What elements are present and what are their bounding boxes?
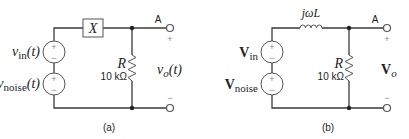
source-a-noise-minus: − xyxy=(51,85,56,95)
source-a-in-plus: + xyxy=(51,42,56,52)
circuit-diagrams: X + − + − vin(t) vnoise(t) A + − R 10 kΩ… xyxy=(0,0,409,139)
source-b-in-label: Vin xyxy=(239,45,258,62)
circuit-a: X + − + − vin(t) vnoise(t) A + − R 10 kΩ… xyxy=(0,14,182,133)
junction-b-top xyxy=(347,26,351,30)
resistor-b-value: 10 kΩ xyxy=(318,71,345,82)
element-x-label: X xyxy=(88,21,98,36)
wire-b-bottom xyxy=(272,95,385,108)
junction-a-top xyxy=(130,26,134,30)
caption-a: (a) xyxy=(103,122,115,133)
wire-a-top-left xyxy=(54,28,83,41)
source-b-in-minus: − xyxy=(269,53,274,63)
terminal-b-top xyxy=(384,25,391,32)
junction-a-bottom xyxy=(130,106,134,110)
source-b-noise-label: Vnoise xyxy=(225,77,258,94)
wire-a-bottom xyxy=(54,95,166,108)
source-b-noise-plus: + xyxy=(269,74,274,84)
output-b-plus: + xyxy=(384,34,389,44)
inductor-label: jωL xyxy=(300,6,321,20)
resistor-b-name: R xyxy=(333,56,343,71)
node-a-label: A xyxy=(155,14,162,25)
inductor-icon xyxy=(300,25,322,28)
source-b-noise-minus: − xyxy=(269,85,274,95)
caption-b: (b) xyxy=(322,122,334,133)
circuit-b: jωL + − + − Vin Vnoise A + − R 10 kΩ Vo … xyxy=(225,6,397,133)
output-a-plus: + xyxy=(167,34,172,44)
junction-b-bottom xyxy=(347,106,351,110)
output-b-minus: − xyxy=(384,93,389,103)
source-a-noise-label: vnoise(t) xyxy=(0,76,40,93)
resistor-b-icon xyxy=(345,55,353,81)
source-b-in-plus: + xyxy=(269,42,274,52)
terminal-a-top xyxy=(167,25,174,32)
resistor-a-name: R xyxy=(116,56,126,71)
source-a-in-minus: − xyxy=(51,53,56,63)
terminal-b-bottom xyxy=(384,105,391,112)
output-b-label: Vo xyxy=(381,62,397,79)
resistor-a-icon xyxy=(128,55,136,81)
node-b-label: A xyxy=(372,14,379,25)
source-a-noise-plus: + xyxy=(51,74,56,84)
output-a-label: vo(t) xyxy=(157,62,182,79)
source-a-in-label: vin(t) xyxy=(12,44,40,61)
terminal-a-bottom xyxy=(167,105,174,112)
output-a-minus: − xyxy=(167,93,172,103)
resistor-a-value: 10 kΩ xyxy=(101,71,128,82)
wire-b-top-left xyxy=(272,28,300,41)
